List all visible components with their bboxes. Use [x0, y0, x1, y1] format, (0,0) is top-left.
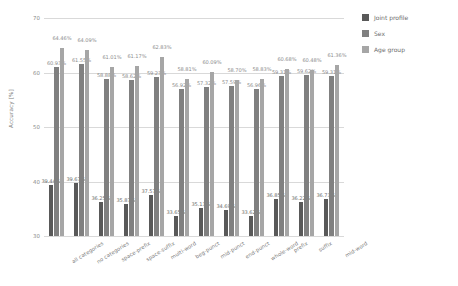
bar [135, 66, 140, 236]
bar [304, 75, 309, 236]
bar-value-label: 61.01% [102, 54, 121, 60]
bar [154, 77, 159, 236]
bar-group: 33.62%56.96%58.83% [249, 18, 265, 236]
y-axis-title: Accuracy [%] [8, 89, 14, 128]
legend-item[interactable]: Age group [362, 46, 454, 53]
bar-group: 39.44%60.93%64.46% [49, 18, 65, 236]
bar [274, 199, 279, 236]
bar-value-label: 61.17% [127, 53, 146, 59]
bar [204, 87, 209, 236]
y-axis-tick-label: 40 [33, 179, 40, 185]
bar-group: 35.87%58.62%61.17% [124, 18, 140, 236]
bar [124, 204, 129, 236]
x-axis-tick-label: beg-punct [194, 240, 220, 260]
bar [79, 64, 84, 236]
bar-value-label: 60.48% [302, 57, 321, 63]
bar [104, 79, 109, 236]
bar [110, 67, 115, 236]
bar [49, 185, 54, 236]
bar [324, 199, 329, 236]
bar-groups: 39.44%60.93%64.46%39.67%61.55%64.09%36.2… [44, 18, 344, 236]
bar-group: 39.67%61.55%64.09% [74, 18, 90, 236]
bar [285, 69, 290, 236]
bar-value-label: 60.68% [277, 56, 296, 62]
x-axis-tick-label: mid-word [343, 240, 368, 258]
bar [235, 80, 240, 236]
plot-area: 3040506070 39.44%60.93%64.46%39.67%61.55… [44, 18, 344, 236]
bar-value-label: 64.09% [77, 37, 96, 43]
legend-item-label: Sex [374, 30, 385, 37]
y-axis-tick-label: 50 [33, 124, 40, 130]
bar [335, 65, 340, 236]
bar [329, 76, 334, 236]
y-axis-tick-label: 70 [33, 15, 40, 21]
x-axis-tick-label: end-punct [244, 240, 270, 260]
legend: Joint profileSexAge group [362, 14, 454, 62]
bar [299, 202, 304, 236]
bar [199, 208, 204, 236]
legend-swatch-icon [362, 14, 369, 21]
bar [129, 80, 134, 236]
bar [229, 86, 234, 236]
bar [210, 72, 215, 236]
bar [310, 70, 315, 236]
bar [254, 89, 259, 236]
bar [179, 89, 184, 236]
bar [60, 48, 65, 236]
bar-value-label: 58.81% [177, 66, 196, 72]
bar [85, 50, 90, 236]
bar-value-label: 64.46% [52, 35, 71, 41]
bar-value-label: 61.36% [327, 52, 346, 58]
bar-value-label: 58.83% [252, 66, 271, 72]
gridline: 30 [44, 236, 344, 237]
legend-item-label: Age group [374, 46, 405, 53]
y-axis-tick-label: 60 [33, 70, 40, 76]
bar [185, 79, 190, 236]
legend-item-label: Joint profile [374, 14, 408, 21]
bar-group: 33.65%56.92%58.81% [174, 18, 190, 236]
bar-group: 34.69%57.59%58.70% [224, 18, 240, 236]
bar-value-label: 60.09% [202, 59, 221, 65]
x-axis-tick-label: mid-punct [219, 240, 245, 260]
y-axis-tick-label: 30 [33, 233, 40, 239]
bar [54, 67, 59, 236]
bar-value-label: 58.70% [227, 67, 246, 73]
bar-group: 36.85%59.31%60.68% [274, 18, 290, 236]
bar [260, 79, 265, 236]
bar [149, 195, 154, 236]
bar [249, 216, 254, 236]
bar-group: 37.57%59.23%62.83% [149, 18, 165, 236]
bar-group: 35.13%57.32%60.09% [199, 18, 215, 236]
bar-group: 36.22%59.62%60.48% [299, 18, 315, 236]
bar-group: 36.73%59.31%61.36% [324, 18, 340, 236]
bar [160, 57, 165, 236]
bar [74, 183, 79, 236]
bar-value-label: 62.83% [152, 44, 171, 50]
bar-chart: Accuracy [%] 3040506070 39.44%60.93%64.4… [0, 0, 458, 286]
bar [99, 202, 104, 236]
bar-group: 36.25%58.88%61.01% [99, 18, 115, 236]
legend-item[interactable]: Sex [362, 30, 454, 37]
legend-item[interactable]: Joint profile [362, 14, 454, 21]
x-axis-tick-label: suffix [317, 240, 333, 253]
legend-swatch-icon [362, 46, 369, 53]
legend-swatch-icon [362, 30, 369, 37]
bar [279, 76, 284, 236]
bar [224, 210, 229, 236]
bar [174, 216, 179, 236]
